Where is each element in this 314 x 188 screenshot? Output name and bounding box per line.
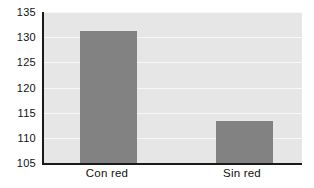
x-tick-label-sin-red: Sin red bbox=[223, 167, 261, 179]
y-tick-label-115: 115 bbox=[18, 107, 36, 119]
x-tick-label-con-red: Con red bbox=[86, 167, 128, 179]
y-axis: 105 110 115 120 125 130 135 bbox=[0, 0, 40, 188]
bar-chart-figure: 105 110 115 120 125 130 135 Con red Sin … bbox=[0, 0, 314, 188]
plot-area bbox=[42, 12, 302, 165]
x-axis: Con red Sin red bbox=[42, 167, 300, 187]
y-tick-label-125: 125 bbox=[17, 56, 36, 68]
y-tick-label-135: 135 bbox=[17, 6, 36, 18]
y-tick-label-110: 110 bbox=[18, 132, 36, 144]
y-tick-label-105: 105 bbox=[17, 157, 36, 169]
bars-layer bbox=[44, 12, 302, 163]
bar-con-red[interactable] bbox=[80, 31, 137, 163]
y-tick-label-120: 120 bbox=[17, 82, 36, 94]
y-tick-label-130: 130 bbox=[17, 31, 36, 43]
bar-sin-red[interactable] bbox=[216, 121, 273, 163]
